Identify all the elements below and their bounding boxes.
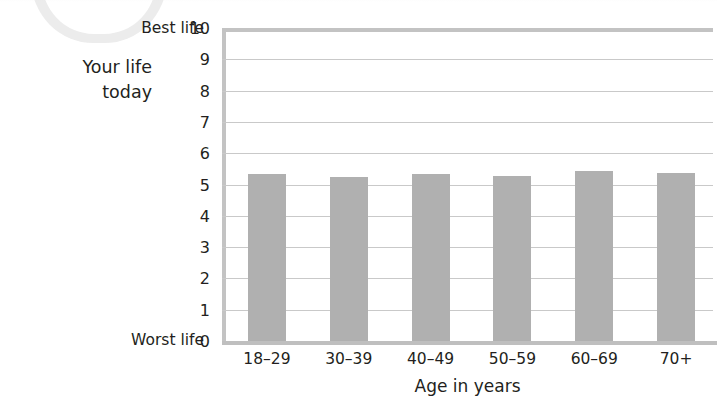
y-axis-caption: Your life today [0, 55, 152, 105]
bar [575, 171, 613, 341]
y-axis-caption-line-2: today [0, 80, 152, 105]
y-tick-label: 1 [200, 300, 210, 319]
y-tick-label: 6 [200, 144, 210, 163]
y-tick-label: 2 [200, 269, 210, 288]
chart-figure: Your life today Best life Worst life 012… [0, 0, 717, 414]
x-axis-title: Age in years [222, 376, 713, 396]
y-tick-label: 5 [200, 175, 210, 194]
y-tick-label: 0 [200, 332, 210, 351]
y-tick-label: 9 [200, 50, 210, 69]
bar [412, 174, 450, 341]
y-tick-label: 3 [200, 238, 210, 257]
worst-life-label: Worst life [54, 331, 204, 349]
y-axis-caption-line-1: Your life [0, 55, 152, 80]
bar [657, 173, 695, 341]
bar [493, 176, 531, 341]
bar [330, 177, 368, 341]
y-tick-label: 8 [200, 81, 210, 100]
best-life-label: Best life [54, 19, 204, 37]
plot-area: 012345678910 18–2930–3940–4950–5960–6970… [222, 28, 713, 341]
y-tick-label: 4 [200, 206, 210, 225]
bar [248, 174, 286, 341]
x-tick-label: 18–29 [243, 350, 290, 368]
y-tick-label: 10 [190, 19, 210, 38]
x-tick-label: 40–49 [407, 350, 454, 368]
x-tick-label: 70+ [660, 350, 693, 368]
x-axis-line [222, 341, 717, 345]
x-tick-label: 60–69 [571, 350, 618, 368]
x-tick-label: 30–39 [325, 350, 372, 368]
bar-series [222, 28, 713, 341]
y-tick-label: 7 [200, 112, 210, 131]
x-tick-label: 50–59 [489, 350, 536, 368]
